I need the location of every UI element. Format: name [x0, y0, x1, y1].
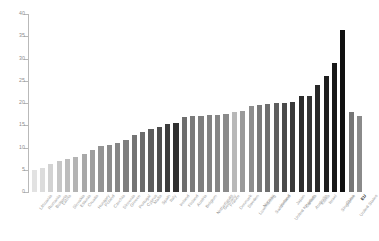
bar[interactable] — [265, 104, 270, 192]
x-label-slot: Spain — [155, 193, 163, 241]
bar[interactable] — [65, 159, 70, 192]
bar[interactable] — [40, 168, 45, 192]
x-axis-labels: LithuaniaRomaniaBulgariaLatviaSlovakiaEs… — [28, 193, 364, 241]
bar-slot — [63, 14, 71, 192]
bar[interactable] — [132, 135, 137, 192]
bar-slot — [330, 14, 338, 192]
x-label-slot: China — [339, 193, 347, 241]
bar[interactable] — [207, 115, 212, 192]
bar-slot — [97, 14, 105, 192]
bar[interactable] — [299, 96, 304, 192]
bar[interactable] — [349, 112, 354, 192]
bar-slot — [355, 14, 363, 192]
bar-slot — [214, 14, 222, 192]
bar[interactable] — [57, 161, 62, 192]
x-label-slot: United States — [347, 193, 355, 241]
x-label-slot: Greece — [122, 193, 130, 241]
bar[interactable] — [232, 112, 237, 192]
bar[interactable] — [182, 117, 187, 192]
bar-slot — [239, 14, 247, 192]
y-tick-label: 15 — [19, 123, 25, 128]
bar[interactable] — [332, 63, 337, 192]
bar[interactable] — [98, 146, 103, 192]
bar-slot — [322, 14, 330, 192]
x-label-slot: Slovakia — [63, 193, 71, 241]
y-tick-label: 35 — [19, 34, 25, 39]
bar[interactable] — [240, 111, 245, 192]
x-label-slot: Netherlands — [205, 193, 213, 241]
x-label-slot: Australia — [305, 193, 313, 241]
bar-slot — [47, 14, 55, 192]
bar[interactable] — [307, 96, 312, 192]
bar[interactable] — [82, 154, 87, 192]
bar[interactable] — [198, 116, 203, 192]
bar[interactable] — [148, 129, 153, 192]
bar[interactable] — [274, 103, 279, 192]
x-label-slot: Denmark — [230, 193, 238, 241]
bar[interactable] — [90, 150, 95, 192]
bar[interactable] — [357, 116, 362, 192]
bar-slot — [180, 14, 188, 192]
x-label-slot: Malta — [147, 193, 155, 241]
bar-slot — [164, 14, 172, 192]
bar-slot — [230, 14, 238, 192]
bar[interactable] — [173, 123, 178, 192]
bar[interactable] — [249, 106, 254, 192]
x-label-slot: Lithuania — [30, 193, 38, 241]
bar-slot — [297, 14, 305, 192]
y-tick-label: 40 — [19, 11, 25, 16]
bar[interactable] — [73, 157, 78, 192]
x-label-slot: Japan — [289, 193, 297, 241]
x-label-slot: Switzerland — [264, 193, 272, 241]
x-label-slot: France — [222, 193, 230, 241]
x-label-slot: Belgium — [197, 193, 205, 241]
bar-slot — [347, 14, 355, 192]
bar[interactable] — [290, 102, 295, 192]
plot-area: 0510152025303540 — [28, 14, 364, 192]
x-label-slot: Ireland — [172, 193, 180, 241]
y-tick-label: 20 — [19, 100, 25, 105]
x-label-slot: Italy — [164, 193, 172, 241]
x-label-slot: Austria — [189, 193, 197, 241]
bar[interactable] — [157, 127, 162, 192]
bar-slot — [38, 14, 46, 192]
bar[interactable] — [315, 85, 320, 192]
bar[interactable] — [32, 170, 37, 192]
bar[interactable] — [282, 103, 287, 192]
bar-slot — [264, 14, 272, 192]
bar[interactable] — [340, 30, 345, 192]
x-label-slot: Poland — [97, 193, 105, 241]
bar-slot — [189, 14, 197, 192]
x-label-slot: Singapore — [330, 193, 338, 241]
x-label-slot: Cyprus — [138, 193, 146, 241]
x-label-slot: Korea — [314, 193, 322, 241]
bar[interactable] — [257, 105, 262, 192]
bar[interactable] — [215, 115, 220, 192]
bar-slot — [105, 14, 113, 192]
bar-slot — [113, 14, 121, 192]
x-label-slot: Sweden — [239, 193, 247, 241]
bar-slot — [88, 14, 96, 192]
bar-series — [28, 14, 364, 192]
bar[interactable] — [115, 143, 120, 192]
bar[interactable] — [48, 164, 53, 192]
bar[interactable] — [165, 124, 170, 192]
x-label-slot: Germany — [214, 193, 222, 241]
bar[interactable] — [190, 116, 195, 192]
bar-slot — [255, 14, 263, 192]
bar[interactable] — [324, 76, 329, 192]
bar-slot — [138, 14, 146, 192]
bar[interactable] — [140, 132, 145, 192]
bar[interactable] — [123, 140, 128, 193]
bar-slot — [280, 14, 288, 192]
x-label-slot: Norway — [255, 193, 263, 241]
x-label-slot: Croatia — [80, 193, 88, 241]
bar-slot — [122, 14, 130, 192]
bar-slot — [30, 14, 38, 192]
bar[interactable] — [223, 114, 228, 192]
x-label-slot: Slovenia — [113, 193, 121, 241]
x-label-slot: Israel — [322, 193, 330, 241]
bar-slot — [80, 14, 88, 192]
bar[interactable] — [107, 145, 112, 192]
bar-slot — [197, 14, 205, 192]
